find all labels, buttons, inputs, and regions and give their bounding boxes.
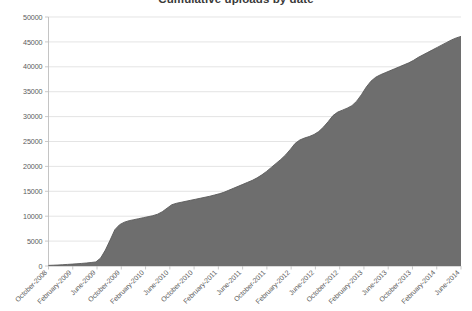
x-axis-labels-group: October-2008February-2009June-2009Octobe… xyxy=(14,269,461,306)
y-axis-tick-label: 30000 xyxy=(23,112,43,121)
x-axis-ticks-group xyxy=(49,266,462,270)
y-axis-tick-label: 40000 xyxy=(23,62,43,71)
y-axis-tick-label: 10000 xyxy=(23,212,43,221)
y-axis-tick-label: 15000 xyxy=(23,187,43,196)
y-axis-tick-label: 5000 xyxy=(27,237,43,246)
area-fill xyxy=(49,36,462,266)
area-chart-plot: 0500010000150002000025000300003500040000… xyxy=(0,0,472,311)
y-axis-labels-group: 0500010000150002000025000300003500040000… xyxy=(23,13,49,271)
y-axis-tick-label: 45000 xyxy=(23,38,43,47)
x-axis-tick-label: June-2014 xyxy=(433,269,461,297)
chart-container: Cumulative uploads by date 0500010000150… xyxy=(0,0,472,311)
y-axis-tick-label: 35000 xyxy=(23,87,43,96)
y-axis-tick-label: 25000 xyxy=(23,137,43,146)
y-axis-tick-label: 20000 xyxy=(23,162,43,171)
data-area-series xyxy=(49,36,462,266)
y-axis-tick-label: 50000 xyxy=(23,13,43,22)
